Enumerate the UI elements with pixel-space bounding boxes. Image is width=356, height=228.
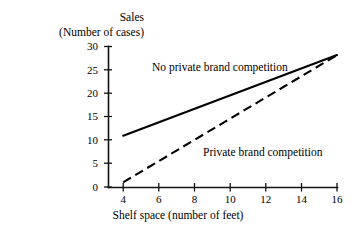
y-tick-label-20: 20 bbox=[72, 88, 98, 99]
x-tick-label-12: 12 bbox=[253, 194, 279, 205]
y-tick-label-0: 0 bbox=[72, 182, 98, 193]
y-tick-label-5: 5 bbox=[72, 158, 98, 169]
y-tick-label-30: 30 bbox=[72, 41, 98, 52]
y-tick-label-10: 10 bbox=[72, 135, 98, 146]
x-tick-label-14: 14 bbox=[289, 194, 315, 205]
chart-figure: Sales (Number of cases) 30 25 20 15 10 5… bbox=[0, 0, 356, 228]
x-axis-title: Shelf space (number of feet) bbox=[0, 210, 356, 222]
x-tick-label-10: 10 bbox=[217, 194, 243, 205]
series-label-private-brand-competition: Private brand competition bbox=[203, 147, 322, 159]
x-tick-label-6: 6 bbox=[146, 194, 172, 205]
y-tick-label-25: 25 bbox=[72, 65, 98, 76]
y-axis-title-line2: (Number of cases) bbox=[0, 27, 144, 39]
x-tick-label-4: 4 bbox=[110, 194, 136, 205]
series-label-no-private-brand-competition: No private brand competition bbox=[152, 62, 288, 74]
y-axis-title-line1: Sales bbox=[0, 12, 144, 24]
series-private-brand-competition bbox=[123, 55, 337, 182]
x-tick-label-8: 8 bbox=[182, 194, 208, 205]
x-tick-label-16: 16 bbox=[324, 194, 350, 205]
y-tick-label-15: 15 bbox=[72, 111, 98, 122]
